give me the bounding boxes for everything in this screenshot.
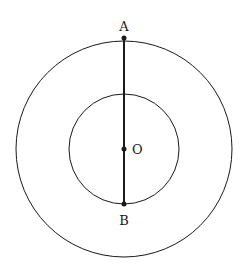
label-b: B — [119, 213, 129, 228]
diagram-canvas: A O B — [0, 0, 249, 275]
point-b — [122, 202, 127, 207]
point-a — [122, 36, 127, 41]
label-o: O — [132, 142, 143, 157]
label-a: A — [118, 19, 129, 34]
point-o — [122, 147, 127, 152]
